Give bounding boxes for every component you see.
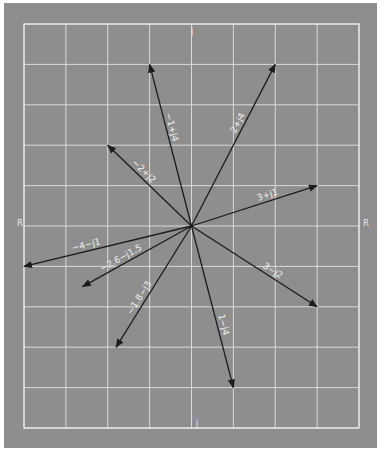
- axis-label-right: R: [363, 219, 369, 228]
- vector-neg4-minus-j1-label: −4−j1: [71, 236, 102, 253]
- vector-1-minus-j4-label: 1−j4: [216, 313, 231, 337]
- axis-label-top: j: [190, 27, 193, 36]
- axis-label-bottom: j: [195, 419, 198, 428]
- phasor-diagram: −1+j42+j4−2+j23+j1−4−j1−2.6−j1.53−j2−1.8…: [0, 0, 386, 452]
- vector-3-plus-j1: [192, 186, 318, 226]
- vector-labels: −1+j42+j4−2+j23+j1−4−j1−2.6−j1.53−j2−1.8…: [71, 111, 285, 337]
- axis-label-left: R: [17, 219, 23, 228]
- vector-neg1.8-minus-j3: [116, 226, 191, 347]
- vector-neg2.6-minus-j1.5: [83, 226, 192, 287]
